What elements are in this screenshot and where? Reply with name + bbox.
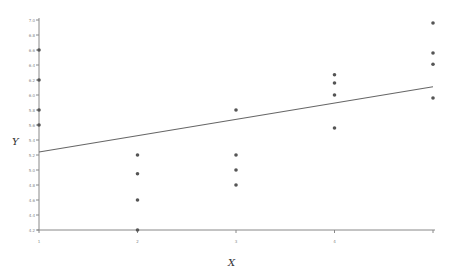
y-tick-label: 6.0 — [29, 93, 36, 98]
data-point — [234, 153, 238, 157]
y-tick-label: 4.4 — [29, 213, 36, 218]
data-point — [37, 108, 41, 112]
y-tick-label: 6.4 — [29, 63, 36, 68]
regression-line — [39, 87, 433, 152]
x-tick-label: 1 — [38, 239, 41, 244]
data-point — [136, 172, 140, 176]
data-point — [333, 73, 337, 77]
data-point — [37, 48, 41, 52]
y-tick-label: 5.6 — [29, 123, 36, 128]
y-tick-label: 5.4 — [29, 138, 36, 143]
scatter-chart: 4.24.44.64.85.05.25.45.65.86.06.26.46.66… — [0, 0, 450, 278]
y-tick-label: 4.8 — [29, 183, 36, 188]
data-points — [37, 21, 435, 232]
data-point — [431, 21, 435, 25]
data-point — [333, 126, 337, 130]
y-tick-label: 6.8 — [29, 33, 36, 38]
y-tick-label: 5.0 — [29, 168, 36, 173]
data-point — [136, 153, 140, 157]
data-point — [37, 123, 41, 127]
x-tick-label: 4 — [333, 239, 336, 244]
y-tick-label: 5.8 — [29, 108, 36, 113]
fit-line-group — [39, 87, 433, 152]
x-axis-title: X — [227, 257, 236, 268]
data-point — [136, 198, 140, 202]
x-tick-label: 3 — [235, 239, 238, 244]
y-tick-label: 4.6 — [29, 198, 36, 203]
x-axis: 1234 — [37, 230, 435, 244]
x-tick-label: 2 — [136, 239, 139, 244]
data-point — [234, 168, 238, 172]
y-axis-title: Y — [12, 136, 20, 147]
y-tick-label: 7.0 — [29, 18, 36, 23]
y-tick-label: 4.2 — [29, 228, 36, 233]
y-tick-label: 6.6 — [29, 48, 36, 53]
data-point — [333, 81, 337, 85]
data-point — [234, 108, 238, 112]
data-point — [234, 183, 238, 187]
data-point — [37, 78, 41, 82]
data-point — [431, 96, 435, 100]
data-point — [333, 93, 337, 97]
data-point — [431, 51, 435, 55]
data-point — [136, 228, 140, 232]
y-tick-label: 6.2 — [29, 78, 36, 83]
y-tick-label: 5.2 — [29, 153, 36, 158]
data-point — [431, 62, 435, 66]
